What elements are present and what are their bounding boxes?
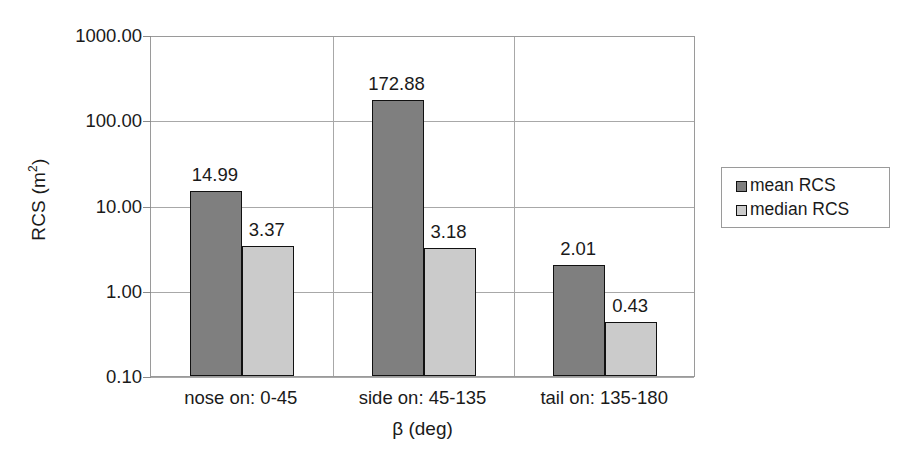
bar-mean-1[interactable] (190, 191, 242, 376)
y-axis-tick-mark (143, 292, 151, 293)
category-separator-gridline (333, 37, 334, 376)
data-label: 3.37 (249, 221, 285, 240)
y-axis-tick-mark (143, 377, 151, 378)
y-axis-tick-mark (143, 36, 151, 37)
y-axis-tick-labels: 1000.00100.0010.001.000.10 (46, 0, 142, 459)
chart-legend: mean RCS median RCS (721, 167, 890, 228)
y-axis-tick-label: 1000.00 (46, 27, 142, 46)
bar-mean-3[interactable] (553, 265, 605, 376)
rcs-bar-chart: RCS (m2) 1000.00100.0010.001.000.10 nose… (0, 0, 909, 459)
data-label: 3.18 (430, 223, 466, 242)
data-label: 14.99 (192, 166, 238, 185)
horizontal-gridline (151, 377, 694, 378)
x-axis-category-label: tail on: 135-180 (540, 387, 668, 409)
legend-label-mean-rcs: mean RCS (750, 177, 836, 195)
bar-median-2[interactable] (424, 248, 476, 376)
data-label: 172.88 (368, 75, 425, 94)
category-separator-gridline (514, 37, 515, 376)
x-axis-category-label: side on: 45-135 (359, 387, 487, 409)
y-axis-title-exponent: 2 (26, 165, 40, 172)
data-label: 0.43 (612, 297, 648, 316)
legend-item-median-rcs[interactable]: median RCS (722, 198, 889, 222)
data-label: 2.01 (560, 240, 596, 259)
y-axis-tick-mark (143, 207, 151, 208)
bar-median-3[interactable] (605, 322, 657, 376)
y-axis-tick-mark (143, 121, 151, 122)
legend-swatch-mean-icon (736, 181, 747, 192)
y-axis-tick-label: 1.00 (46, 283, 142, 302)
legend-label-median-rcs: median RCS (750, 201, 849, 219)
legend-item-mean-rcs[interactable]: mean RCS (722, 174, 889, 198)
x-axis-title: β (deg) (150, 418, 695, 440)
x-axis-category-label: nose on: 0-45 (184, 387, 297, 409)
y-axis-tick-label: 10.00 (46, 197, 142, 216)
legend-swatch-median-icon (736, 205, 747, 216)
y-axis-tick-label: 0.10 (46, 368, 142, 387)
bar-median-1[interactable] (242, 246, 294, 376)
y-axis-tick-label: 100.00 (46, 112, 142, 131)
bar-mean-2[interactable] (372, 100, 424, 376)
